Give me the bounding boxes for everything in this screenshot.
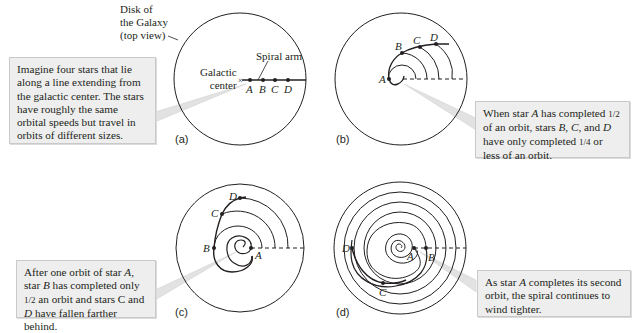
disk-label-line: (top view) [120,29,168,42]
disk-label: Disk of the Galaxy (top view) [120,3,168,42]
star-label-a: A [407,251,414,262]
star-label-a: A [379,74,386,85]
galactic-center-label: Galactic center [200,66,237,92]
star-label-a: A [246,84,253,95]
callout-text: B [43,279,50,291]
fraction-quarter: 1/4 [579,137,591,147]
panel-tag-d: (d) [336,306,349,318]
callout-text: have only completed [483,135,579,147]
star-label-c: C [379,287,386,298]
star-label-b: B [395,41,402,52]
star-label-d: D [342,243,350,254]
disk-label-line: the Galaxy [120,16,168,29]
star-label-c: C [211,208,218,219]
star-label-a: A [255,250,262,261]
star-label-c: C [271,84,278,95]
fraction-half: 1/2 [24,295,36,305]
star-label-d: D [284,84,292,95]
spiral-arm-label: Spiral arm [256,50,302,62]
disk-label-line: Disk of [120,3,168,16]
galactic-center-line: center [200,79,237,92]
callout-text: A [519,276,526,288]
callout-text: has completed [538,107,608,119]
callout-c: After one orbit of star A, star B has co… [16,260,156,318]
panel-tag-c: (c) [175,306,188,318]
panel-b-diagram [335,13,467,145]
star-label-b: B [428,252,435,263]
svg-text:×: × [238,76,243,85]
panel-a-diagram: × [168,13,306,145]
star-label-b: B [203,243,210,254]
star-label-c: C [413,35,420,46]
callout-text: of an orbit, stars [483,121,559,133]
callout-text: have fallen farther behind. [24,307,117,332]
callout-text: has completed only [50,279,140,291]
callout-text: When star [483,107,531,119]
callout-text: After one orbit of star [24,266,124,278]
callout-b: When star A has completed 1/2 of an orbi… [475,101,630,158]
callout-text: D [603,121,611,133]
panel-c-diagram [176,184,304,312]
fraction-half: 1/2 [608,109,620,119]
star-label-d: D [430,32,438,43]
callout-text: D [24,307,32,319]
callout-text: As star [485,276,519,288]
galaxy-disk-c [176,184,304,312]
callout-a: Imagine four stars that lie along a line… [9,57,156,144]
star-label-b: B [259,84,266,95]
callout-pointer-b [404,84,476,130]
callout-pointer-c [155,252,236,300]
disk-leader-line [168,36,178,40]
spiral-arm-leader [258,61,268,80]
callout-d: As star A completes its second orbit, th… [477,270,631,317]
callout-text: an orbit and stars C and [36,293,145,305]
panel-tag-a: (a) [175,133,188,145]
panel-tag-b: (b) [336,133,349,145]
star-label-d: D [229,191,237,202]
galactic-center-line: Galactic [200,66,237,79]
callout-text: , and [578,121,603,133]
